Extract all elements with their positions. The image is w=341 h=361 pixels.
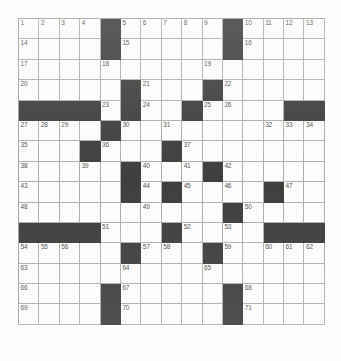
open-cell[interactable] <box>39 39 59 59</box>
open-cell[interactable] <box>101 80 121 100</box>
open-cell[interactable]: 31 <box>162 121 182 141</box>
open-cell[interactable]: 3 <box>60 19 80 39</box>
open-cell[interactable] <box>264 284 284 304</box>
open-cell[interactable] <box>60 284 80 304</box>
open-cell[interactable]: 7 <box>162 19 182 39</box>
open-cell[interactable]: 70 <box>121 304 141 324</box>
open-cell[interactable] <box>243 162 263 182</box>
open-cell[interactable] <box>243 264 263 284</box>
open-cell[interactable]: 65 <box>203 264 223 284</box>
open-cell[interactable] <box>162 101 182 121</box>
open-cell[interactable]: 60 <box>264 243 284 263</box>
open-cell[interactable] <box>223 141 243 161</box>
open-cell[interactable] <box>203 39 223 59</box>
open-cell[interactable]: 37 <box>182 141 202 161</box>
open-cell[interactable] <box>243 182 263 202</box>
open-cell[interactable]: 34 <box>304 121 324 141</box>
open-cell[interactable] <box>264 304 284 324</box>
open-cell[interactable] <box>121 141 141 161</box>
open-cell[interactable]: 33 <box>284 121 304 141</box>
open-cell[interactable]: 36 <box>101 141 121 161</box>
open-cell[interactable] <box>39 182 59 202</box>
open-cell[interactable]: 55 <box>39 243 59 263</box>
open-cell[interactable] <box>203 182 223 202</box>
open-cell[interactable] <box>203 223 223 243</box>
open-cell[interactable] <box>80 284 100 304</box>
open-cell[interactable] <box>182 284 202 304</box>
open-cell[interactable] <box>39 162 59 182</box>
open-cell[interactable] <box>60 264 80 284</box>
open-cell[interactable]: 50 <box>243 203 263 223</box>
open-cell[interactable] <box>203 121 223 141</box>
open-cell[interactable] <box>264 39 284 59</box>
open-cell[interactable] <box>39 284 59 304</box>
open-cell[interactable]: 32 <box>264 121 284 141</box>
open-cell[interactable] <box>80 121 100 141</box>
open-cell[interactable]: 66 <box>19 284 39 304</box>
open-cell[interactable] <box>182 304 202 324</box>
open-cell[interactable] <box>203 141 223 161</box>
open-cell[interactable] <box>182 264 202 284</box>
open-cell[interactable] <box>162 80 182 100</box>
open-cell[interactable] <box>162 264 182 284</box>
open-cell[interactable] <box>60 203 80 223</box>
open-cell[interactable]: 54 <box>19 243 39 263</box>
open-cell[interactable] <box>264 162 284 182</box>
open-cell[interactable]: 49 <box>141 203 161 223</box>
open-cell[interactable]: 64 <box>121 264 141 284</box>
open-cell[interactable]: 48 <box>19 203 39 223</box>
open-cell[interactable] <box>304 264 324 284</box>
open-cell[interactable] <box>162 39 182 59</box>
open-cell[interactable]: 63 <box>19 264 39 284</box>
open-cell[interactable] <box>304 80 324 100</box>
open-cell[interactable]: 39 <box>80 162 100 182</box>
open-cell[interactable] <box>80 182 100 202</box>
open-cell[interactable]: 42 <box>223 162 243 182</box>
open-cell[interactable]: 15 <box>121 39 141 59</box>
open-cell[interactable] <box>304 182 324 202</box>
open-cell[interactable] <box>223 264 243 284</box>
open-cell[interactable] <box>80 304 100 324</box>
open-cell[interactable] <box>162 304 182 324</box>
open-cell[interactable]: 35 <box>19 141 39 161</box>
open-cell[interactable] <box>80 80 100 100</box>
open-cell[interactable] <box>182 243 202 263</box>
open-cell[interactable] <box>39 304 59 324</box>
open-cell[interactable]: 14 <box>19 39 39 59</box>
open-cell[interactable] <box>304 141 324 161</box>
open-cell[interactable]: 11 <box>264 19 284 39</box>
open-cell[interactable] <box>304 39 324 59</box>
open-cell[interactable]: 56 <box>60 243 80 263</box>
open-cell[interactable] <box>223 121 243 141</box>
open-cell[interactable] <box>243 60 263 80</box>
open-cell[interactable] <box>284 284 304 304</box>
open-cell[interactable] <box>60 141 80 161</box>
open-cell[interactable]: 44 <box>141 182 161 202</box>
open-cell[interactable] <box>162 162 182 182</box>
open-cell[interactable] <box>304 304 324 324</box>
open-cell[interactable]: 22 <box>223 80 243 100</box>
open-cell[interactable]: 68 <box>243 284 263 304</box>
open-cell[interactable]: 67 <box>121 284 141 304</box>
open-cell[interactable]: 9 <box>203 19 223 39</box>
open-cell[interactable]: 52 <box>182 223 202 243</box>
open-cell[interactable]: 38 <box>19 162 39 182</box>
open-cell[interactable]: 62 <box>304 243 324 263</box>
open-cell[interactable] <box>60 162 80 182</box>
open-cell[interactable]: 28 <box>39 121 59 141</box>
open-cell[interactable]: 29 <box>60 121 80 141</box>
open-cell[interactable] <box>80 243 100 263</box>
open-cell[interactable] <box>182 203 202 223</box>
open-cell[interactable]: 69 <box>19 304 39 324</box>
open-cell[interactable]: 21 <box>141 80 161 100</box>
open-cell[interactable] <box>141 60 161 80</box>
open-cell[interactable]: 46 <box>223 182 243 202</box>
open-cell[interactable]: 2 <box>39 19 59 39</box>
open-cell[interactable] <box>304 162 324 182</box>
open-cell[interactable] <box>121 223 141 243</box>
open-cell[interactable] <box>182 39 202 59</box>
open-cell[interactable] <box>121 203 141 223</box>
open-cell[interactable] <box>162 60 182 80</box>
open-cell[interactable] <box>304 203 324 223</box>
open-cell[interactable] <box>162 284 182 304</box>
